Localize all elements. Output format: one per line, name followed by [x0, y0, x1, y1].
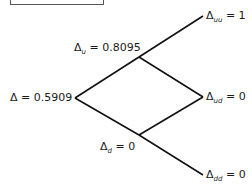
delta-symbol: Δ	[10, 91, 18, 104]
edge-d-dd	[139, 135, 203, 175]
delta-symbol: Δ	[206, 90, 214, 103]
node-value: = 0.5909	[18, 91, 73, 104]
node-root-label: Δ = 0.5909	[10, 92, 72, 104]
node-value: = 0.8095	[86, 41, 141, 54]
delta-symbol: Δ	[100, 140, 108, 153]
node-ud-label: Δud = 0	[206, 91, 246, 107]
node-dd-label: Δdd = 0	[206, 169, 246, 185]
delta-symbol: Δ	[206, 168, 214, 181]
delta-symbol: Δ	[74, 41, 82, 54]
edge-d-ud	[139, 97, 203, 135]
node-u-label: Δu = 0.8095	[74, 42, 141, 58]
node-value: = 1	[222, 9, 245, 22]
delta-symbol: Δ	[206, 9, 214, 22]
edge-u-ud	[139, 57, 203, 97]
node-value: = 0	[112, 140, 135, 153]
edge-root-u	[75, 57, 139, 98]
node-value: = 0	[222, 168, 245, 181]
edge-u-uu	[139, 16, 203, 57]
node-d-label: Δd = 0	[100, 141, 135, 157]
node-uu-label: Δuu = 1	[206, 10, 246, 26]
edge-root-d	[75, 98, 139, 135]
node-value: = 0	[222, 90, 245, 103]
